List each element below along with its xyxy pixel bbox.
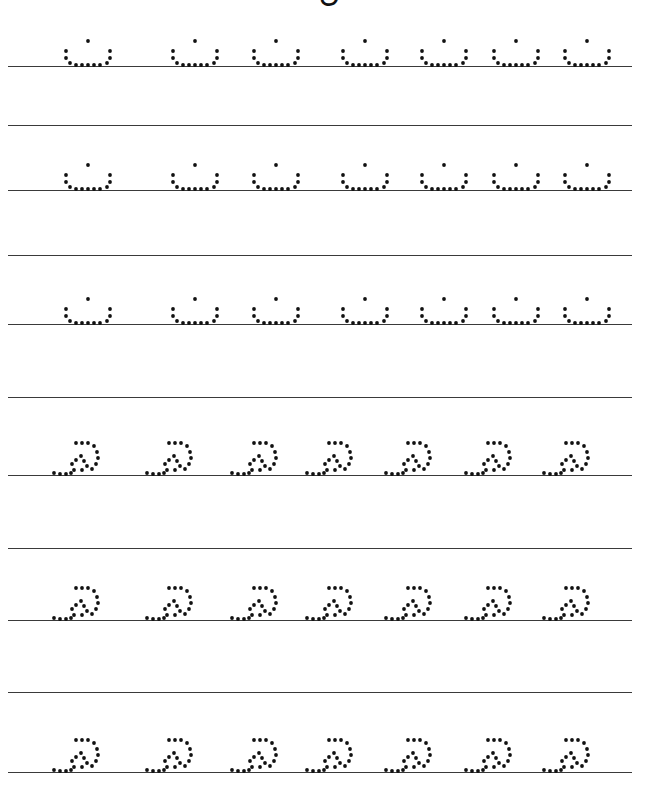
dotted-swirl-letter	[464, 736, 514, 774]
dotted-noon-letter	[250, 294, 300, 326]
dotted-swirl-letter	[52, 439, 102, 477]
rule-line	[8, 397, 632, 398]
dotted-swirl-letter	[542, 439, 592, 477]
dotted-swirl-letter	[305, 584, 355, 622]
dotted-swirl-letter	[384, 584, 434, 622]
dotted-swirl-letter	[230, 736, 280, 774]
dotted-noon-letter	[418, 294, 468, 326]
dotted-noon-letter	[418, 160, 468, 192]
dotted-noon-letter	[62, 36, 112, 68]
rule-line	[8, 255, 632, 256]
dotted-noon-letter	[62, 160, 112, 192]
dotted-noon-letter	[490, 36, 540, 68]
rule-line	[8, 125, 632, 126]
dotted-noon-letter	[339, 36, 389, 68]
dotted-swirl-letter	[542, 584, 592, 622]
dotted-swirl-letter	[145, 439, 195, 477]
dotted-swirl-letter	[230, 439, 280, 477]
dotted-swirl-letter	[464, 439, 514, 477]
dotted-swirl-letter	[305, 736, 355, 774]
dotted-noon-letter	[339, 160, 389, 192]
dotted-noon-letter	[169, 294, 219, 326]
dotted-noon-letter	[490, 160, 540, 192]
dotted-swirl-letter	[52, 736, 102, 774]
dotted-swirl-letter	[542, 736, 592, 774]
rule-line	[8, 692, 632, 693]
dotted-noon-letter	[561, 160, 611, 192]
dotted-swirl-letter	[52, 584, 102, 622]
dotted-noon-letter	[339, 294, 389, 326]
dotted-noon-letter	[490, 294, 540, 326]
worksheet-title: ن	[0, 0, 659, 6]
dotted-noon-letter	[250, 36, 300, 68]
dotted-swirl-letter	[230, 584, 280, 622]
dotted-noon-letter	[418, 36, 468, 68]
dotted-noon-letter	[62, 294, 112, 326]
dotted-noon-letter	[169, 36, 219, 68]
dotted-swirl-letter	[384, 736, 434, 774]
dotted-swirl-letter	[145, 736, 195, 774]
dotted-noon-letter	[250, 160, 300, 192]
dotted-swirl-letter	[145, 584, 195, 622]
dotted-noon-letter	[169, 160, 219, 192]
rule-line	[8, 548, 632, 549]
dotted-swirl-letter	[464, 584, 514, 622]
dotted-swirl-letter	[384, 439, 434, 477]
dotted-noon-letter	[561, 36, 611, 68]
dotted-noon-letter	[561, 294, 611, 326]
dotted-swirl-letter	[305, 439, 355, 477]
